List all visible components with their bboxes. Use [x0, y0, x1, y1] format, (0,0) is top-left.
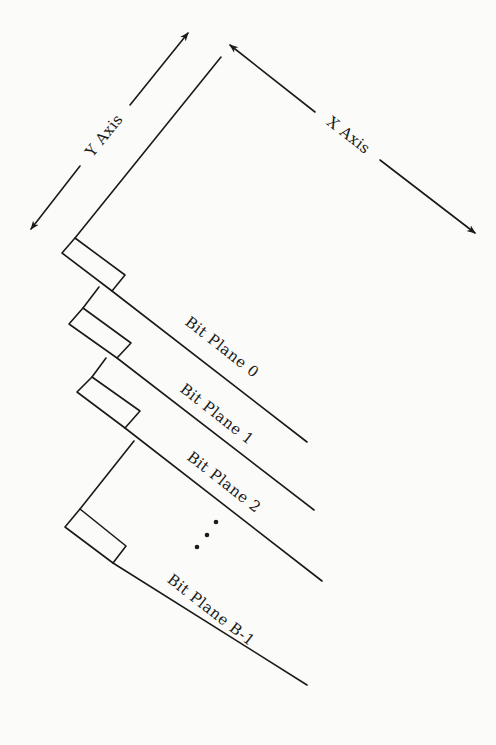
plane-thickness — [62, 238, 125, 291]
x-axis-label: X Axis — [323, 113, 374, 158]
bit-plane-b-minus-1-label: Bit Plane B-1 — [164, 570, 259, 650]
x-edge — [125, 428, 322, 581]
bit-plane-diagram: Y Axis X Axis Bit Plane 0 Bit Plane 1 Bi… — [0, 0, 496, 745]
ellipsis-dots — [195, 520, 219, 550]
plane-thickness — [65, 509, 126, 563]
y-axis-label: Y Axis — [81, 110, 127, 161]
y-edge — [92, 358, 106, 377]
y-edge — [80, 441, 134, 509]
plane-thickness — [69, 308, 131, 358]
bit-plane-0-label: Bit Plane 0 — [182, 313, 263, 382]
y-edge — [83, 287, 99, 308]
plane-thickness — [77, 377, 140, 428]
x-edge — [117, 358, 314, 510]
x-edge — [113, 563, 307, 685]
